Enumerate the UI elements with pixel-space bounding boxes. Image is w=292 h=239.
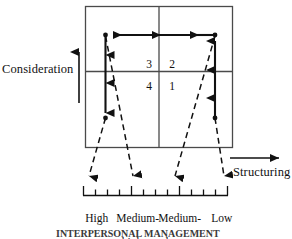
consideration-axis-label: Consideration <box>2 63 73 76</box>
figure-caption: INTERPERSONAL MANAGEMENT <box>56 229 236 237</box>
quadrant-label-1: 1 <box>165 80 179 92</box>
scale-label-line1: Low <box>211 212 232 224</box>
structuring-scale-ruler <box>83 186 228 196</box>
figure-container: Consideration Structuring 3 2 4 1 High M… <box>0 0 292 239</box>
projection-line-medium-low <box>175 36 215 176</box>
right-upward-path <box>213 41 218 120</box>
quadrant-frame <box>86 7 233 148</box>
projection-line-medium-high <box>106 36 134 176</box>
structuring-axis-label: Structuring <box>233 166 290 179</box>
left-downward-path <box>103 36 108 120</box>
quadrant-label-3: 3 <box>142 58 156 70</box>
projection-lines <box>89 36 224 176</box>
quadrant-label-2: 2 <box>165 58 179 70</box>
quadrant-label-4: 4 <box>142 80 156 92</box>
top-leftward-path <box>103 33 217 38</box>
